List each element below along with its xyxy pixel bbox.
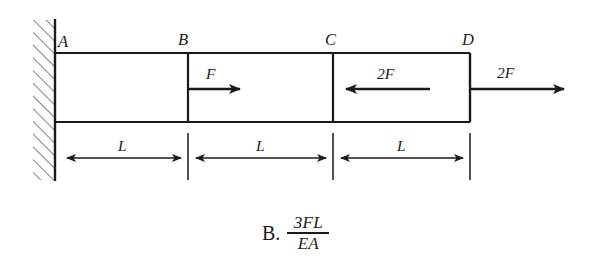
force-label-f: F [205,65,216,82]
node-label-b: B [178,30,188,49]
answer-choice-letter: B. [262,223,280,243]
fraction-denominator: EA [296,234,321,252]
answer-fraction: 3FL EA [287,214,329,251]
force-arrow-f-at-b: F [189,65,240,89]
dim-label-ab: L [117,137,127,154]
dim-label-cd: L [396,137,406,154]
dim-label-bc: L [255,137,265,154]
force-arrow-2f-at-c: 2F [346,65,430,89]
force-label-2f-external: 2F [497,64,515,81]
node-label-a: A [57,32,69,51]
node-label-c: C [325,30,337,49]
dimension-chain: L L L [67,137,463,158]
node-label-d: D [461,30,474,49]
wall-hatching [33,20,55,180]
fraction-numerator: 3FL [292,214,325,232]
answer-option-b: B. 3FL EA [262,210,329,256]
force-label-2f-interior: 2F [377,65,395,82]
force-arrow-2f-at-d: 2F [471,64,564,89]
dimension-extension-lines [188,133,470,180]
figure-root: A B C D F 2F 2F L L [0,0,591,264]
bar-body [55,53,470,122]
fixed-wall-support [33,19,55,181]
